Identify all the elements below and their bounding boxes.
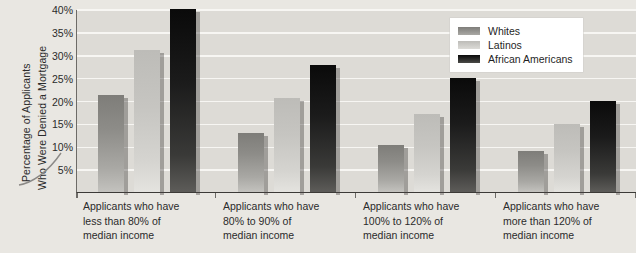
y-axis-tick-label: 35% bbox=[52, 27, 73, 39]
x-axis-category-label-4: Applicants who havemore than 120% ofmedi… bbox=[503, 199, 635, 243]
bar-latinos-group-4 bbox=[554, 124, 580, 192]
y-axis-tick-label: 20% bbox=[52, 96, 73, 108]
category-label-line: median income bbox=[223, 228, 355, 243]
y-axis-tick-label: 5% bbox=[58, 164, 73, 176]
bar-latinos-group-1 bbox=[134, 50, 160, 192]
bar-african-group-1 bbox=[170, 9, 196, 192]
y-axis-tick-label: 15% bbox=[52, 118, 73, 130]
category-label-line: median income bbox=[83, 228, 215, 243]
category-label-line: 80% to 90% of bbox=[223, 214, 355, 229]
category-label-line: Applicants who have bbox=[363, 199, 495, 214]
bar-latinos-group-2 bbox=[274, 98, 300, 192]
category-label-line: median income bbox=[503, 228, 635, 243]
legend-swatch-icon-latinos bbox=[458, 41, 480, 49]
x-axis-category-label-1: Applicants who haveless than 80% ofmedia… bbox=[83, 199, 215, 243]
gridline-40pct bbox=[77, 9, 636, 11]
y-axis-tick-label: 30% bbox=[52, 50, 73, 62]
bar-african-group-4 bbox=[590, 101, 616, 193]
legend-item-whites: Whites bbox=[458, 24, 573, 38]
bar-whites-group-1 bbox=[98, 95, 124, 192]
category-label-line: Applicants who have bbox=[223, 199, 355, 214]
category-label-line: less than 80% of bbox=[83, 214, 215, 229]
bar-african-group-2 bbox=[310, 65, 336, 192]
legend-swatch-icon-african bbox=[458, 55, 480, 63]
mortgage-denial-bar-chart: Percentage of Applicants Who Were Denied… bbox=[0, 0, 636, 253]
legend: WhitesLatinosAfrican Americans bbox=[450, 18, 583, 72]
legend-item-african: African Americans bbox=[458, 52, 573, 66]
bar-whites-group-3 bbox=[378, 145, 404, 192]
legend-label: African Americans bbox=[488, 53, 573, 65]
category-label-line: Applicants who have bbox=[503, 199, 635, 214]
y-axis-tick-labels: 5%10%15%20%25%30%35%40% bbox=[0, 0, 81, 196]
legend-item-latinos: Latinos bbox=[458, 38, 573, 52]
x-axis-tick bbox=[355, 193, 357, 198]
legend-swatch-icon-whites bbox=[458, 27, 480, 35]
bar-whites-group-4 bbox=[518, 151, 544, 192]
x-axis-tick bbox=[215, 193, 217, 198]
x-axis-category-label-2: Applicants who have80% to 90% ofmedian i… bbox=[223, 199, 355, 243]
category-label-line: 100% to 120% of bbox=[363, 214, 495, 229]
bar-african-group-3 bbox=[450, 78, 476, 192]
category-label-line: Applicants who have bbox=[83, 199, 215, 214]
x-axis-tick bbox=[495, 193, 497, 198]
category-label-line: more than 120% of bbox=[503, 214, 635, 229]
y-axis-tick-label: 25% bbox=[52, 73, 73, 85]
bar-latinos-group-3 bbox=[414, 114, 440, 192]
bar-whites-group-2 bbox=[238, 133, 264, 192]
y-axis-tick-label: 40% bbox=[52, 4, 73, 16]
x-axis-tick bbox=[76, 193, 78, 198]
legend-label: Whites bbox=[488, 25, 520, 37]
legend-label: Latinos bbox=[488, 39, 522, 51]
x-axis-category-label-3: Applicants who have100% to 120% ofmedian… bbox=[363, 199, 495, 243]
category-label-line: median income bbox=[363, 228, 495, 243]
y-axis-tick-label: 10% bbox=[52, 141, 73, 153]
